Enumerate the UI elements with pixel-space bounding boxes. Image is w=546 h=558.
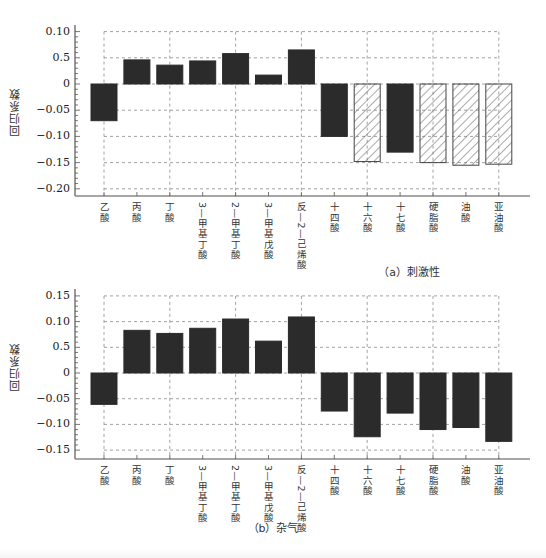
bar-11 bbox=[453, 373, 479, 427]
bar-9 bbox=[387, 373, 413, 413]
x-category-label: 丙酸 bbox=[132, 465, 142, 486]
x-category-label: 油酸 bbox=[461, 465, 471, 486]
x-category-label: 硬脂酸 bbox=[428, 465, 438, 497]
bar-4 bbox=[223, 319, 249, 373]
bar-3 bbox=[190, 328, 216, 373]
bar-6 bbox=[288, 317, 314, 373]
x-category-label: 3—甲基丁酸 bbox=[198, 465, 208, 524]
x-category-label: 十六酸 bbox=[362, 465, 372, 497]
figure-caption-cutoff bbox=[0, 548, 546, 558]
y-tick-label: 0 bbox=[30, 366, 70, 379]
y-tick-label: −0.10 bbox=[30, 417, 70, 430]
y-tick-label: 0.10 bbox=[30, 315, 70, 328]
bar-10 bbox=[420, 373, 446, 430]
y-tick-label: −0.15 bbox=[30, 443, 70, 456]
bar-8 bbox=[354, 373, 380, 437]
bar-7 bbox=[321, 373, 347, 411]
bar-5 bbox=[256, 341, 282, 373]
y-tick-label: 0.5 bbox=[30, 340, 70, 353]
x-category-label: 丁酸 bbox=[165, 465, 175, 486]
bar-0 bbox=[91, 373, 117, 404]
x-category-label: 乙酸 bbox=[99, 465, 109, 486]
chart-off-flavor: 回归系数 0.150.100.50−0.05−0.10−0.15 乙酸丙酸丁酸3… bbox=[0, 0, 546, 558]
y-tick-label: 0.15 bbox=[30, 289, 70, 302]
bar-12 bbox=[486, 373, 512, 441]
x-category-label: 十七酸 bbox=[395, 465, 405, 497]
x-category-label: 2—甲基丁酸 bbox=[231, 465, 241, 524]
subcaption-b: （b）杂气 bbox=[0, 519, 546, 535]
y-tick-label: −0.05 bbox=[30, 392, 70, 405]
x-category-label: 亚油酸 bbox=[494, 465, 504, 497]
x-category-label: 十四酸 bbox=[329, 465, 339, 497]
bar-1 bbox=[124, 330, 150, 373]
x-category-label: 3—甲基戊酸 bbox=[264, 465, 274, 524]
bar-2 bbox=[157, 333, 183, 373]
